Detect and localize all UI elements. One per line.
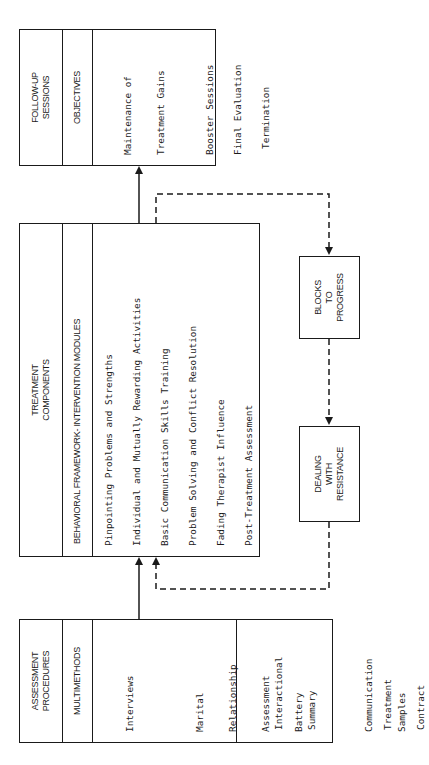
treatment-to-blocks-dashed-arrow — [156, 194, 329, 251]
resistance-to-treatment-dashed-arrow — [156, 522, 329, 589]
outcome-item: Treatment Contract — [360, 620, 429, 730]
